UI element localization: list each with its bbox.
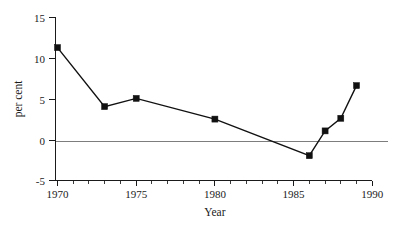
data-point-1980 xyxy=(212,116,218,122)
line-chart: 15 10 5 0 -5 1970 1975 1980 1985 1990 pe… xyxy=(0,0,395,226)
chart-canvas: 15 10 5 0 -5 1970 1975 1980 1985 1990 pe… xyxy=(0,0,395,226)
x-tick-label-1970: 1970 xyxy=(47,188,70,200)
y-axis-title: per cent xyxy=(12,80,25,118)
x-tick-label-1980: 1980 xyxy=(204,188,227,200)
y-tick-label-0: 0 xyxy=(40,135,46,147)
data-point-1988 xyxy=(338,115,344,121)
y-tick-label-minus5: -5 xyxy=(36,175,46,187)
data-point-1987 xyxy=(322,128,328,134)
x-axis-title: Year xyxy=(204,206,225,218)
data-point-1970 xyxy=(55,45,61,51)
series-line-percent xyxy=(58,48,357,156)
data-point-1986 xyxy=(306,153,312,159)
x-tick-label-1975: 1975 xyxy=(125,188,148,200)
data-point-1975 xyxy=(133,95,139,101)
data-point-1973 xyxy=(102,104,108,110)
x-tick-label-1985: 1985 xyxy=(283,188,306,200)
y-tick-label-5: 5 xyxy=(40,94,46,106)
data-point-1989 xyxy=(354,83,360,89)
y-tick-label-15: 15 xyxy=(34,12,46,24)
y-tick-label-10: 10 xyxy=(34,53,46,65)
x-tick-label-1990: 1990 xyxy=(361,188,384,200)
